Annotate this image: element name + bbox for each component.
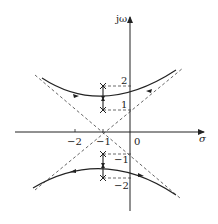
- direction-arrows: [70, 89, 152, 177]
- arrow-lower-right: [138, 173, 144, 177]
- root-locus-diagram: jω σ −2 −1 0 2 1 −1 −2: [0, 0, 218, 224]
- x-tick-label-neg2: −2: [67, 136, 82, 147]
- jw-axis-label: jω: [115, 13, 127, 24]
- sigma-axis-label: σ: [199, 133, 207, 144]
- arrow-upper-right: [146, 89, 152, 93]
- x-tick-label-0: 0: [134, 136, 140, 147]
- arrow-pole1-up: [101, 97, 105, 101]
- arrow-upper-left: [73, 94, 79, 98]
- y-tick-label-1: 1: [121, 99, 127, 110]
- x-tick-label-neg1: −1: [96, 136, 111, 147]
- y-tick-label-2: 2: [121, 75, 127, 86]
- asymptotes: [35, 68, 183, 198]
- y-tick-label-neg1: −1: [114, 154, 129, 165]
- lower-branch: [33, 169, 176, 195]
- upper-branch: [42, 70, 176, 96]
- arrow-pole-neg2-up: [101, 164, 105, 168]
- y-tick-label-neg2: −2: [114, 180, 129, 191]
